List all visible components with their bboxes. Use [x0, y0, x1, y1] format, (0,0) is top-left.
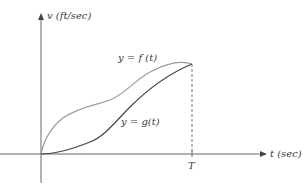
g-curve-label: y = g(t)	[121, 117, 160, 127]
x-axis-label: t (sec)	[270, 149, 302, 159]
f-curve-label: y = f (t)	[118, 53, 157, 63]
velocity-chart: v (ft/sec) t (sec) y = f (t) y = g(t) T	[0, 0, 307, 187]
curve-g	[41, 64, 192, 154]
tick-T-label: T	[188, 161, 195, 171]
y-axis-label-text: v (ft/sec)	[47, 10, 91, 21]
chart-canvas	[0, 0, 307, 187]
x-axis-arrow-icon	[260, 151, 267, 157]
y-axis-arrow-icon	[38, 13, 44, 20]
y-axis-label: v (ft/sec)	[47, 11, 91, 21]
